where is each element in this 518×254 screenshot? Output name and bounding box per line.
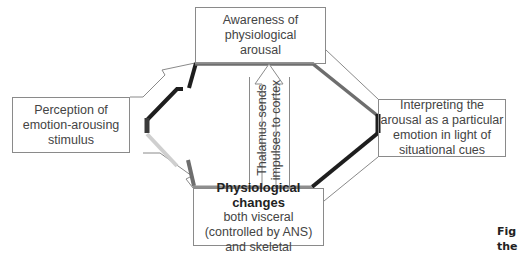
- thalamus-label-text: Thalamus sends impulses to cortex: [255, 80, 283, 181]
- node-perception-line-1: Perception of: [34, 103, 108, 118]
- caption-line-2: the: [497, 239, 518, 254]
- node-physiological-line-2: (controlled by ANS): [205, 225, 313, 240]
- figure-caption-fragment: Fig the: [497, 224, 518, 254]
- arrow-perception-to-awareness: [130, 63, 196, 188]
- node-interpreting-line-2: arousal as a particular: [381, 113, 504, 128]
- node-interpreting-line-3: emotion in light of: [393, 128, 491, 143]
- node-awareness-line-1: Awareness of: [223, 13, 299, 28]
- node-physiological-changes: Physiological changes both visceral (con…: [193, 188, 324, 246]
- node-interpreting-line-4: situational cues: [399, 143, 485, 158]
- caption-line-1: Fig: [497, 224, 518, 239]
- node-awareness-of-arousal: Awareness of physiological arousal: [195, 7, 326, 64]
- thalamus-arrow-label: Thalamus sends impulses to cortex: [249, 72, 289, 188]
- node-perception-line-2: emotion-arousing: [23, 118, 120, 133]
- node-physiological-line-3: and skeletal: [225, 240, 292, 254]
- node-awareness-line-3: arousal: [240, 43, 281, 58]
- node-awareness-line-2: physiological: [225, 28, 297, 43]
- node-interpreting-line-1: Interpreting the: [400, 98, 484, 113]
- node-interpreting-arousal: Interpreting the arousal as a particular…: [378, 99, 506, 157]
- thalamus-label-line-2: impulses to cortex: [269, 80, 283, 181]
- node-physiological-line-1: both visceral: [223, 210, 293, 225]
- node-perception-of-stimulus: Perception of emotion-arousing stimulus: [12, 97, 130, 153]
- node-perception-line-3: stimulus: [48, 133, 94, 148]
- thalamus-label-line-1: Thalamus sends: [255, 80, 269, 181]
